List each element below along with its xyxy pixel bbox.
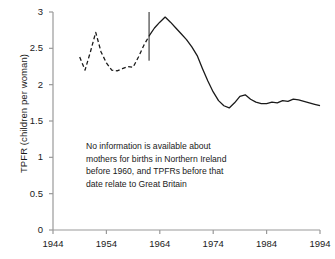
x-axis-tick-label: 1994 <box>300 238 335 249</box>
axis-lines <box>53 12 320 230</box>
data-source-note-line: before 1960, and TPFRs before that <box>86 165 266 178</box>
y-axis-tick-label: 1.5 <box>17 115 43 126</box>
y-axis-tick-label: 2.5 <box>17 42 43 53</box>
x-axis-tick-label: 1964 <box>140 238 180 249</box>
x-axis-tick-label: 1954 <box>86 238 126 249</box>
y-axis-tick-label: 0.5 <box>17 188 43 199</box>
data-source-note-line: date relate to Great Britain <box>86 178 266 191</box>
x-axis-ticks <box>53 230 320 234</box>
data-source-note: No information is available aboutmothers… <box>86 140 266 190</box>
y-axis-tick-label: 2 <box>17 79 43 90</box>
x-axis-tick-label: 1984 <box>247 238 287 249</box>
y-axis-tick-label: 0 <box>17 224 43 235</box>
y-axis-tick-label: 1 <box>17 151 43 162</box>
data-source-note-line: No information is available about <box>86 140 266 153</box>
x-axis-tick-label: 1974 <box>193 238 233 249</box>
data-series-group <box>80 17 320 108</box>
data-series-line <box>149 17 320 108</box>
data-source-note-line: mothers for births in Northern Ireland <box>86 153 266 166</box>
data-series-line <box>80 32 149 71</box>
y-axis-tick-label: 3 <box>17 6 43 17</box>
x-axis-tick-label: 1944 <box>33 238 73 249</box>
